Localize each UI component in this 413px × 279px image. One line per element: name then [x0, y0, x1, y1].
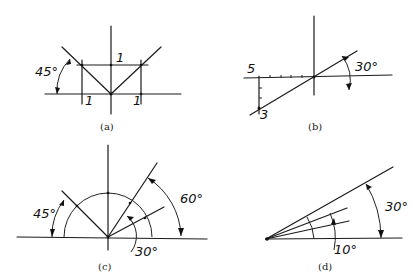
panel-b: 30° 5 3 (b): [244, 16, 392, 132]
angle-label-30: 30°: [355, 59, 378, 74]
caption-b: (b): [308, 121, 322, 132]
unit-label-top: 1: [116, 50, 124, 65]
angle-label-60: 60°: [180, 191, 203, 206]
baseline: [266, 238, 402, 239]
caption-a: (a): [100, 121, 114, 132]
line-60: [108, 163, 157, 237]
caption-d: (d): [318, 261, 332, 272]
angle-label-30: 30°: [135, 244, 158, 259]
arrowhead: [50, 229, 55, 237]
panel-c: 45° 60° 30° (c): [17, 145, 207, 272]
angle-label-30: 30°: [385, 199, 408, 214]
angle-label-45: 45°: [33, 206, 56, 221]
unit-label-bottom-left: 1: [85, 93, 93, 108]
line-30: [266, 167, 393, 239]
panel-d: 10° 30° (d): [265, 167, 408, 272]
left-45-line: [62, 47, 111, 94]
arrowhead: [55, 87, 60, 94]
line-135: [62, 191, 108, 237]
unit-label-bottom-right: 1: [133, 93, 141, 108]
angle-label-10: 10°: [334, 242, 357, 257]
arrowhead: [59, 200, 64, 206]
arrowhead: [378, 230, 384, 238]
arrowhead: [331, 218, 336, 225]
angle-label-45: 45°: [35, 64, 58, 79]
horizontal-axis: [244, 75, 392, 78]
vertical-length-label: 3: [260, 107, 268, 122]
caption-c: (c): [98, 261, 112, 272]
arrowhead: [127, 216, 134, 221]
arrowhead: [346, 83, 352, 90]
construction-arc-inner: [307, 217, 314, 239]
angle-construction-figure: 45° 1 1 1 (a) 30° 5 3 (b): [0, 0, 413, 279]
angle-arc-30: [366, 184, 381, 238]
slope-line: [250, 51, 357, 115]
baseline: [17, 237, 207, 239]
arrowhead: [178, 228, 184, 236]
horizontal-length-label: 5: [247, 61, 255, 76]
panel-a: 45° 1 1 1 (a): [35, 26, 181, 132]
